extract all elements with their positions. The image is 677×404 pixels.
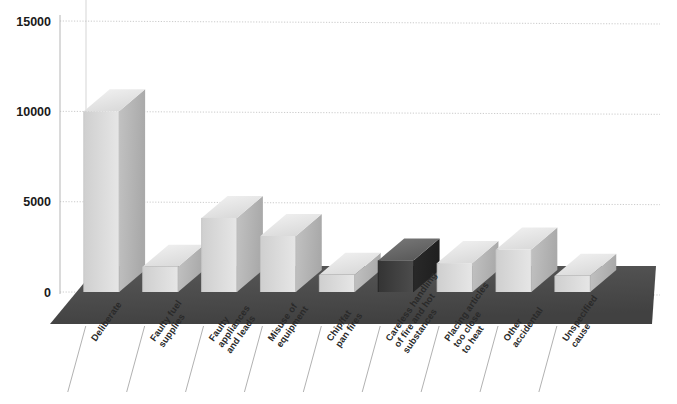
chart-canvas: 150001000050000DeliberateFaulty fuelsupp… bbox=[0, 0, 677, 404]
bar-front-face bbox=[143, 267, 178, 292]
y-tick-label: 5000 bbox=[23, 195, 51, 209]
bar-side-face bbox=[119, 89, 145, 292]
y-tick-label: 0 bbox=[44, 286, 51, 300]
bar-front-face bbox=[555, 276, 590, 292]
bar-front-face bbox=[437, 263, 472, 292]
bar-front-face bbox=[202, 218, 237, 292]
bar-front-face bbox=[319, 275, 354, 292]
chart-3d-bar: 150001000050000DeliberateFaulty fuelsupp… bbox=[0, 0, 677, 404]
bar-front-face bbox=[496, 250, 531, 292]
bar-front-face bbox=[260, 236, 295, 292]
bar-front-face bbox=[84, 111, 119, 292]
y-tick-label: 15000 bbox=[16, 15, 51, 29]
bar-front-face bbox=[378, 260, 413, 292]
y-tick-label: 10000 bbox=[16, 105, 51, 119]
bar-3 bbox=[202, 196, 263, 292]
bar-1 bbox=[84, 89, 145, 292]
